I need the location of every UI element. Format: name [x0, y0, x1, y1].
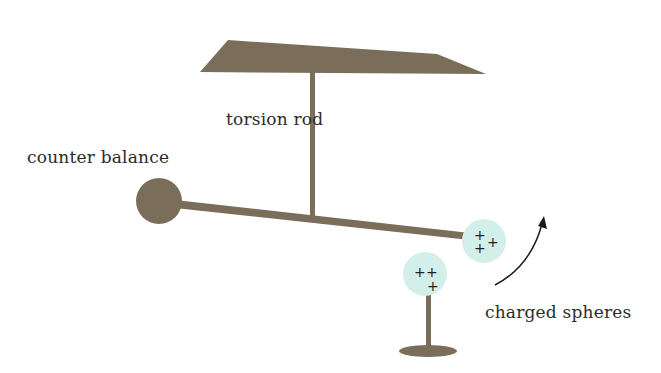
- stand-base: [399, 345, 457, 357]
- charge-plus: +: [427, 278, 439, 294]
- charge-plus: +: [487, 234, 499, 250]
- charged-spheres-label: charged spheres: [485, 302, 632, 322]
- support-plate: [200, 40, 486, 74]
- charge-plus: +: [474, 240, 486, 256]
- counter-balance-label: counter balance: [27, 147, 169, 167]
- torsion-rod: [310, 72, 315, 222]
- counter-balance-sphere: [136, 178, 182, 224]
- torsion-rod-label: torsion rod: [226, 109, 323, 129]
- charge-plus: +: [414, 264, 426, 280]
- stand-pole: [426, 290, 431, 348]
- balance-beam: [175, 200, 470, 240]
- torsion-balance-diagram: + + + + + + torsion rod counter balance …: [0, 0, 661, 373]
- arrow-head-icon: [538, 216, 547, 229]
